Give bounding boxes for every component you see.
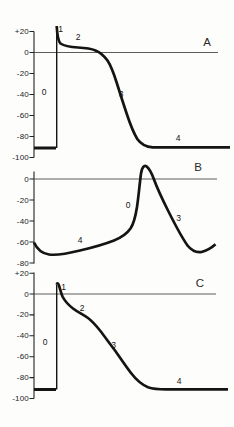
figure-canvas: +20 0 -20 -40 -60 -80 -100 0 1 2 3 4 A 0… [0,0,234,427]
panel-c-ytick-label: +20 [15,269,30,278]
panel-b-ytick-label: -60 [17,238,30,247]
panel-a-phase-0-label: 0 [42,87,47,97]
panel-c: +20 0 -20 -40 -60 -80 -100 0 1 2 3 4 C [12,269,228,403]
panel-b-ytick-label: -80 [17,259,30,268]
panel-c-letter: C [196,277,204,289]
panel-c-phase-3-label: 3 [111,340,116,350]
panel-a-ytick-label: +20 [15,27,30,36]
panel-c-ytick-label: -100 [12,394,29,403]
panel-b-ytick-label: -20 [17,196,30,205]
panel-b-ytick-label: -40 [17,217,30,226]
panel-c-phase-0-label: 0 [43,337,48,347]
panel-a-ytick-label: 0 [24,48,29,57]
panel-a-phase-1-label: 1 [58,24,63,34]
panel-a-ytick-label: -20 [17,69,30,78]
panel-c-ytick-label: -80 [17,373,30,382]
panel-c-ytick-label: -60 [17,352,30,361]
panel-a-ytick-label: -100 [12,153,29,162]
panel-b-phase-0-label: 0 [126,200,131,210]
panel-a-phase-2-label: 2 [76,32,81,42]
panel-c-ytick-label: 0 [24,290,29,299]
panel-a: +20 0 -20 -40 -60 -80 -100 0 1 2 3 4 A [12,24,230,163]
panel-c-phase-1-label: 1 [61,282,66,292]
panel-a-y-axis-ticks [30,32,35,158]
panel-a-letter: A [203,36,211,48]
panel-c-ytick-label: -20 [17,310,30,319]
panel-b-letter: B [194,161,202,173]
panel-c-ytick-label: -40 [17,331,30,340]
panel-a-ytick-label: -80 [17,132,30,141]
panel-b-phase-4-label: 4 [78,235,83,245]
panel-c-y-axis-ticks [30,273,35,398]
panel-b-ytick-label: 0 [24,175,29,184]
panel-a-ytick-label: -40 [17,90,30,99]
panel-c-phase-4-label: 4 [177,376,182,386]
panel-b: 0 -20 -40 -60 -80 4 0 3 B [17,161,217,268]
panel-b-phase-3-label: 3 [176,213,181,223]
panel-a-ytick-label: -60 [17,111,30,120]
panel-a-phase-3-label: 3 [119,89,124,99]
panel-c-trace [57,283,228,389]
panel-c-phase-2-label: 2 [80,303,85,313]
figure-cardiac-action-potentials: +20 0 -20 -40 -60 -80 -100 0 1 2 3 4 A 0… [0,0,234,427]
panel-b-y-axis-ticks [30,179,35,263]
panel-a-phase-4-label: 4 [176,133,181,143]
